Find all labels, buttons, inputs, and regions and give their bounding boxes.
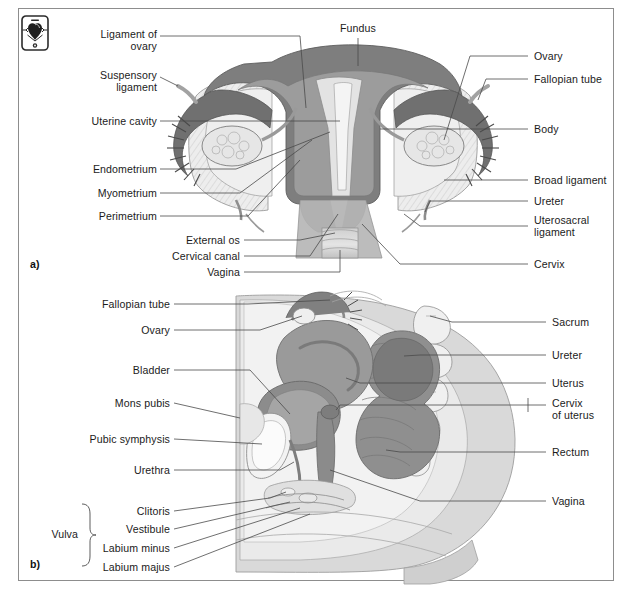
- label-urethra: Urethra: [86, 464, 170, 476]
- label-myometrium: Myometrium: [52, 187, 157, 199]
- label-pubic-symphysis: Pubic symphysis: [64, 433, 170, 445]
- label-cervical-canal: Cervical canal: [130, 250, 240, 262]
- label-fallopian-tube-a: Fallopian tube: [534, 73, 630, 85]
- label-body: Body: [534, 123, 630, 135]
- label-bladder: Bladder: [86, 364, 170, 376]
- figure-frame: [18, 8, 614, 581]
- label-ureter-a: Ureter: [534, 195, 630, 207]
- label-ureter-b: Ureter: [552, 349, 632, 361]
- label-ligament-of-ovary: Ligament of ovary: [62, 28, 157, 53]
- label-ovary-a: Ovary: [534, 50, 630, 62]
- label-uterosacral-ligament: Uterosacral ligament: [534, 214, 630, 239]
- label-uterine-cavity: Uterine cavity: [52, 115, 157, 127]
- label-vagina-a: Vagina: [130, 266, 240, 278]
- label-endometrium: Endometrium: [52, 163, 157, 175]
- label-uterus: Uterus: [552, 377, 632, 389]
- panel-label-a: a): [30, 258, 39, 270]
- label-clitoris: Clitoris: [86, 505, 170, 517]
- label-labium-majus: Labium majus: [78, 561, 170, 573]
- label-vulva-group: Vulva: [30, 528, 78, 540]
- label-cervix-of-uterus: Cervix of uterus: [552, 397, 632, 422]
- label-vestibule: Vestibule: [86, 523, 170, 535]
- label-rectum: Rectum: [552, 446, 632, 458]
- label-fallopian-tube-b: Fallopian tube: [86, 298, 170, 310]
- label-fundus: Fundus: [318, 22, 398, 34]
- label-vagina-b: Vagina: [552, 495, 632, 507]
- label-ovary-b: Ovary: [86, 324, 170, 336]
- label-perimetrium: Perimetrium: [52, 210, 157, 222]
- panel-label-b: b): [30, 558, 40, 570]
- label-suspensory-ligament: Suspensory ligament: [62, 69, 157, 94]
- label-mons-pubis: Mons pubis: [78, 397, 170, 409]
- label-external-os: External os: [130, 234, 240, 246]
- label-broad-ligament: Broad ligament: [534, 174, 633, 186]
- label-cervix-a: Cervix: [534, 258, 630, 270]
- label-sacrum: Sacrum: [552, 316, 632, 328]
- label-labium-minus: Labium minus: [78, 542, 170, 554]
